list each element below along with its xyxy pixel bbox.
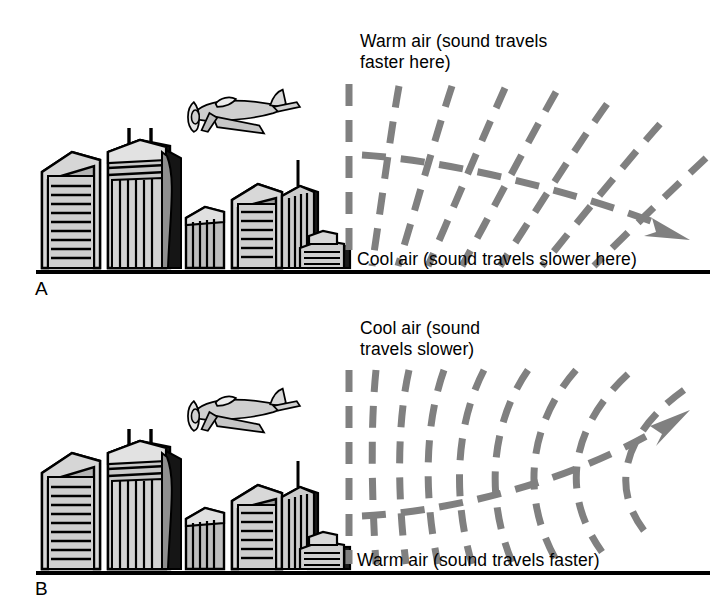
wavefront-lines-b xyxy=(349,370,684,564)
ground-line-b xyxy=(36,571,710,575)
wavefront-lines-a xyxy=(349,84,706,266)
lower-layer-label-b: Warm air (sound travels faster) xyxy=(357,550,600,571)
panel-letter-b: B xyxy=(35,578,48,600)
lower-layer-label-a: Cool air (sound travels slower here) xyxy=(357,249,637,270)
upper-layer-label-a: Warm air (sound travels faster here) xyxy=(360,31,547,73)
ground-line-a xyxy=(36,270,710,274)
panel-a: Warm air (sound travels faster here) Coo… xyxy=(0,0,720,302)
city-skyline xyxy=(42,429,350,569)
sound-ray-b xyxy=(362,410,690,516)
panel-b: Cool air (sound travels slower) Warm air… xyxy=(0,302,720,604)
airplane-icon xyxy=(188,90,300,134)
panel-letter-a: A xyxy=(35,278,48,300)
airplane-icon xyxy=(188,389,300,433)
upper-layer-label-b: Cool air (sound travels slower) xyxy=(360,318,480,360)
city-skyline xyxy=(42,128,350,268)
